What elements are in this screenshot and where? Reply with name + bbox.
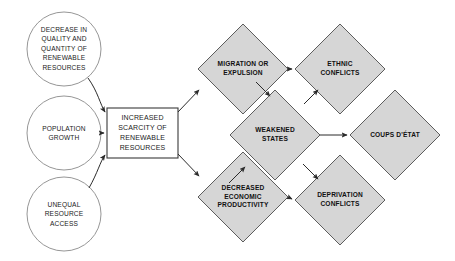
edge-productivity-to-deprivation — [288, 197, 292, 199]
node-population-growth[interactable] — [27, 96, 101, 170]
node-ethnic-conflicts[interactable] — [295, 24, 385, 114]
node-decrease-quality-quantity[interactable] — [27, 12, 101, 86]
diagram-svg — [0, 0, 455, 261]
node-deprivation-conflicts[interactable] — [295, 155, 385, 245]
shapes-layer — [27, 12, 440, 251]
edge-scarcity-to-migration — [178, 90, 199, 112]
edge-unequal-to-scarcity — [89, 155, 105, 188]
node-coups-detat[interactable] — [350, 90, 440, 180]
node-unequal-resource-access[interactable] — [27, 177, 101, 251]
edge-weakened-to-deprivation — [303, 164, 318, 179]
edge-scarcity-to-productivity — [178, 154, 199, 176]
diagram-canvas: DECREASE IN QUALITY AND QUANTITY OF RENE… — [0, 0, 455, 261]
edge-weakened-to-ethnic — [304, 90, 318, 104]
node-increased-scarcity[interactable] — [107, 108, 178, 158]
